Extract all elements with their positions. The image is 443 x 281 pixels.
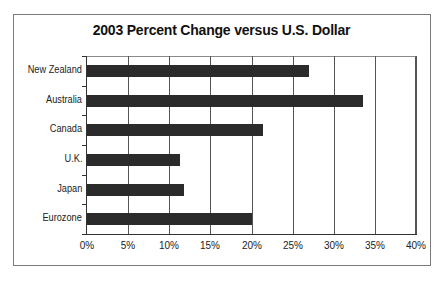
x-tick-label: 10% (149, 240, 189, 251)
x-tick-label: 25% (273, 240, 313, 251)
gridline (375, 56, 376, 234)
gridline (416, 56, 417, 234)
category-label: U.K. (64, 153, 82, 164)
x-tick-label: 20% (232, 240, 272, 251)
x-tick-label: 15% (190, 240, 230, 251)
gridline (252, 56, 253, 234)
gridline (334, 56, 335, 234)
x-axis (86, 234, 417, 235)
category-label: Canada (50, 123, 82, 134)
x-tick-label: 30% (314, 240, 354, 251)
x-tick-label: 0% (67, 240, 107, 251)
category-label: Japan (57, 183, 82, 194)
bar (87, 124, 263, 136)
x-tick-label: 35% (355, 240, 395, 251)
y-axis (86, 56, 87, 235)
x-tick-label: 40% (396, 240, 436, 251)
bar (87, 154, 180, 166)
bar (87, 65, 309, 77)
category-label: Eurozone (43, 212, 82, 223)
bar (87, 213, 252, 225)
gridline (128, 56, 129, 234)
category-label: Australia (46, 94, 82, 105)
x-tick-label: 5% (108, 240, 148, 251)
bar (87, 95, 363, 107)
category-label: New Zealand (28, 64, 82, 75)
bar (87, 184, 184, 196)
gridline (210, 56, 211, 234)
gridline (169, 56, 170, 234)
gridline (293, 56, 294, 234)
chart-title: 2003 Percent Change versus U.S. Dollar (0, 22, 443, 38)
